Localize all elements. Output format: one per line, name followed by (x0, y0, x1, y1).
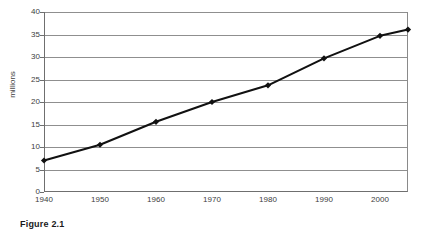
x-axis-tick-label: 1960 (136, 195, 176, 205)
plot-area (44, 12, 408, 192)
x-axis-tick-label: 1990 (304, 195, 344, 205)
gridline (45, 125, 407, 126)
y-axis-tick-label: 30 (22, 53, 40, 61)
y-axis-tick-label: 35 (22, 31, 40, 39)
y-axis-tick-mark (40, 35, 44, 36)
y-axis-tick-mark (40, 170, 44, 171)
gridline (45, 102, 407, 103)
gridline (45, 35, 407, 36)
y-axis-tick-label: 5 (22, 166, 40, 174)
figure-caption: Figure 2.1 (20, 219, 65, 232)
y-axis-tick-mark (40, 192, 44, 193)
y-axis-tick-mark (40, 12, 44, 13)
y-axis-tick-mark (40, 102, 44, 103)
line-chart: millions 0510152025303540 19401950196019… (0, 0, 425, 212)
x-axis-tick-label: 1970 (192, 195, 232, 205)
y-axis-tick-mark (40, 80, 44, 81)
gridline (45, 12, 407, 13)
y-axis-tick-label: 10 (22, 143, 40, 151)
y-axis-tick-label: 40 (22, 8, 40, 16)
gridline (45, 170, 407, 171)
y-axis-tick-mark (40, 125, 44, 126)
y-axis-tick-mark (40, 147, 44, 148)
x-axis-tick-labels: 1940195019601970198019902000 (44, 195, 408, 209)
y-axis-title: millions (8, 55, 17, 115)
gridline (45, 147, 407, 148)
gridline (45, 57, 407, 58)
y-axis-tick-label: 20 (22, 98, 40, 106)
y-axis-tick-mark (40, 57, 44, 58)
gridline (45, 80, 407, 81)
y-axis-tick-labels: 0510152025303540 (22, 12, 40, 192)
x-axis-tick-label: 1940 (24, 195, 64, 205)
x-axis-tick-label: 1950 (80, 195, 120, 205)
y-axis-tick-label: 25 (22, 76, 40, 84)
figure-container: millions 0510152025303540 19401950196019… (0, 0, 425, 232)
y-axis-tick-label: 15 (22, 121, 40, 129)
x-axis-tick-label: 1980 (248, 195, 288, 205)
x-axis-tick-label: 2000 (360, 195, 400, 205)
